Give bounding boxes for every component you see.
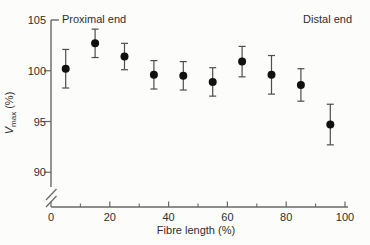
data-point-group: [268, 56, 276, 95]
data-point-marker: [150, 71, 158, 79]
data-point-marker: [209, 78, 217, 86]
data-point-marker: [91, 39, 99, 47]
y-axis-title-sub: max: [9, 112, 18, 127]
y-tick-label: 90: [34, 166, 46, 178]
data-point-marker: [238, 58, 246, 66]
x-tick-label: 40: [162, 211, 174, 223]
x-tick-label: 100: [336, 211, 354, 223]
data-point-marker: [179, 72, 187, 80]
y-axis-title-suffix: (%): [3, 92, 15, 112]
y-tick-label: 105: [28, 14, 46, 26]
data-point-group: [150, 61, 158, 89]
x-axis-title: Fibre length (%): [157, 224, 235, 236]
data-point-marker: [326, 121, 334, 129]
data-point-group: [91, 29, 99, 57]
errorbar-chart: Proximal end Distal end Fibre length (%)…: [0, 0, 370, 245]
data-point-group: [179, 62, 187, 90]
data-point-group: [326, 104, 334, 145]
x-tick-label: 0: [48, 211, 54, 223]
data-point-group: [297, 69, 305, 101]
data-points: [62, 29, 335, 145]
data-point-group: [121, 43, 129, 69]
data-point-marker: [297, 81, 305, 89]
axes: 9095100105020406080100: [28, 14, 355, 223]
y-axis-title: Vmax (%): [3, 92, 18, 135]
figure: Proximal end Distal end Fibre length (%)…: [0, 0, 370, 245]
data-point-group: [62, 49, 70, 88]
annotation-proximal-end: Proximal end: [62, 13, 126, 25]
x-tick-label: 80: [280, 211, 292, 223]
data-point-group: [238, 46, 246, 76]
x-tick-label: 20: [104, 211, 116, 223]
data-point-marker: [121, 53, 129, 61]
data-point-marker: [62, 65, 70, 73]
annotation-distal-end: Distal end: [303, 13, 352, 25]
y-tick-label: 95: [34, 116, 46, 128]
x-tick-label: 60: [221, 211, 233, 223]
y-tick-label: 100: [28, 65, 46, 77]
data-point-marker: [268, 71, 276, 79]
data-point-group: [209, 68, 217, 96]
